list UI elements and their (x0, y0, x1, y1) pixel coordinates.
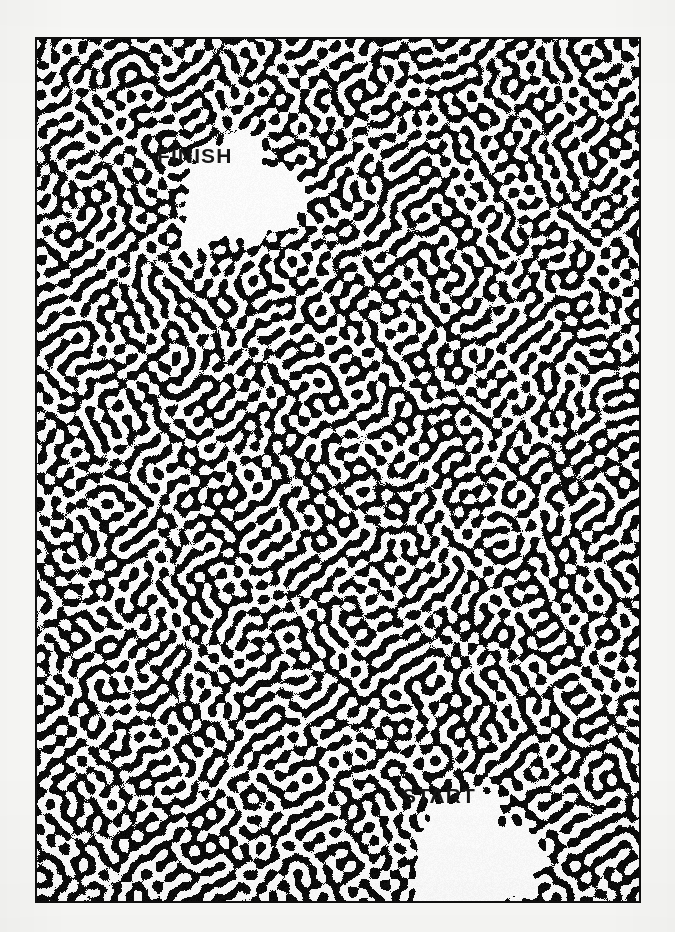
start-label: START (402, 785, 476, 806)
finish-label: FINISH (157, 145, 232, 166)
maze-frame: FINISH START (35, 37, 641, 903)
maze-pattern-canvas[interactable] (37, 39, 639, 901)
maze-puzzle-page: FINISH START (0, 0, 675, 932)
